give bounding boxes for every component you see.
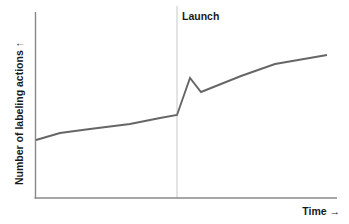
x-axis-label: Time → (302, 206, 340, 217)
y-axis-label: Number of labeling actions ↑ (14, 5, 28, 185)
chart-figure: Number of labeling actions ↑ Time → Laun… (0, 0, 349, 224)
chart-plot-area (0, 0, 349, 224)
launch-annotation-label: Launch (182, 11, 219, 22)
series-line-labeling-actions (36, 55, 327, 140)
